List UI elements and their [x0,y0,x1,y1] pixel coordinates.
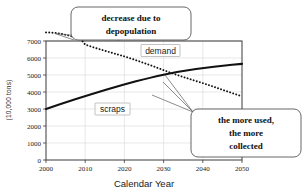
callout-depopulation: decrease due to depopulation [71,7,191,40]
callout-depopulation-line1: decrease due to [102,13,161,23]
callout-depopulation-line2: depopulation [106,26,157,36]
y-tick-0: 0 [38,157,42,165]
chart-figure: 7000 6000 5000 4000 3000 2000 1000 0 200… [0,0,306,193]
y-tick-5000: 5000 [27,72,42,80]
callout-more-collected-line1: the more used, [218,115,274,125]
y-tick-2000: 2000 [27,123,42,131]
series-label-demand: demand [141,45,180,57]
series-label-demand-text: demand [145,46,176,56]
series-label-scraps-text: scraps [100,104,125,114]
y-tick-7000: 7000 [27,38,42,46]
x-tick-2010: 2010 [78,165,93,173]
x-tick-2040: 2040 [196,165,211,173]
callout-more-collected-line3: collected [229,141,262,151]
x-axis-title: Calendar Year [114,178,174,189]
y-tick-4000: 4000 [27,89,42,97]
x-tick-2000: 2000 [39,165,54,173]
y-tick-1000: 1000 [27,140,42,148]
y-tick-6000: 6000 [27,55,42,63]
series-label-scraps: scraps [95,103,130,115]
y-tick-3000: 3000 [27,106,42,114]
x-tick-2020: 2020 [117,165,132,173]
line-chart-svg: 7000 6000 5000 4000 3000 2000 1000 0 200… [0,0,306,193]
x-tick-2030: 2030 [157,165,172,173]
x-tick-2050: 2050 [235,165,250,173]
callout-more-collected: the more used, the more collected [191,109,301,157]
y-axis-title: (10,000 tons) [5,80,13,121]
callout-more-collected-line2: the more [229,128,263,138]
